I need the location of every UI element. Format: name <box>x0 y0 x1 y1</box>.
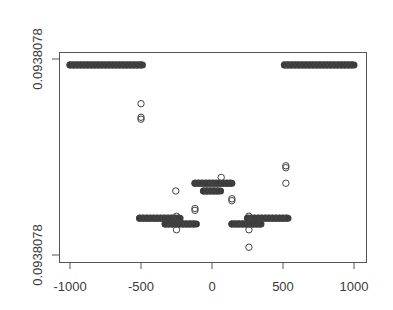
data-point <box>138 100 144 106</box>
y-tick-label: 0.0938078 <box>30 224 45 285</box>
scatter-plot: -1000-50005001000 0.09380780.0938078 <box>0 0 393 310</box>
plot-frame <box>60 53 367 263</box>
x-tick-label: -1000 <box>53 279 86 294</box>
y-tick-label: 0.0938078 <box>30 28 45 89</box>
x-tick-label: 1000 <box>340 279 369 294</box>
x-tick-label: 0 <box>208 279 215 294</box>
x-tick-label: 500 <box>272 279 294 294</box>
data-points <box>67 62 355 251</box>
data-point <box>246 244 252 250</box>
data-point <box>218 174 224 180</box>
data-point <box>173 188 179 194</box>
y-axis: 0.09380780.0938078 <box>30 28 60 285</box>
x-axis: -1000-50005001000 <box>53 263 368 295</box>
data-point <box>283 180 289 186</box>
x-tick-label: -500 <box>128 279 154 294</box>
